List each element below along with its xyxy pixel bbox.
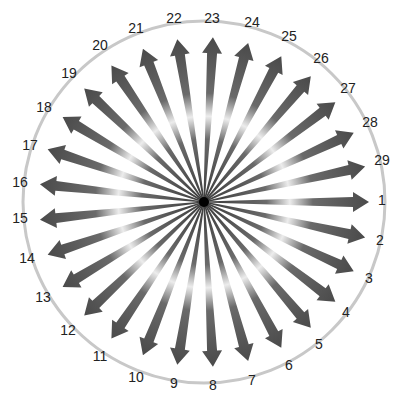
arrow-label-21: 21: [128, 20, 144, 36]
arrow-label-14: 14: [19, 250, 35, 266]
center-hub: [199, 197, 209, 207]
arrow-label-24: 24: [244, 14, 260, 30]
arrow-23: [194, 37, 223, 203]
arrow-1: [204, 192, 369, 212]
arrow-label-27: 27: [340, 80, 356, 96]
arrow-label-4: 4: [342, 304, 350, 320]
arrow-label-5: 5: [315, 336, 323, 352]
arrow-label-28: 28: [362, 114, 378, 130]
arrow-label-2: 2: [376, 232, 384, 248]
arrow-label-16: 16: [12, 174, 28, 190]
arrow-label-6: 6: [285, 357, 293, 373]
arrow-label-15: 15: [12, 210, 28, 226]
arrow-label-13: 13: [35, 289, 51, 305]
arrow-label-11: 11: [93, 348, 108, 364]
arrow-5: [196, 196, 318, 335]
arrow-label-26: 26: [313, 50, 329, 66]
arrow-label-3: 3: [365, 270, 373, 286]
arrow-label-10: 10: [128, 369, 144, 385]
arrow-label-29: 29: [374, 152, 390, 168]
arrow-8: [194, 201, 223, 367]
arrow-label-25: 25: [281, 28, 297, 44]
arrow-label-18: 18: [36, 99, 52, 115]
arrow-label-23: 23: [204, 10, 220, 26]
arrow-label-22: 22: [166, 10, 182, 26]
arrow-label-17: 17: [22, 137, 38, 153]
arrow-label-19: 19: [61, 65, 77, 81]
arrow-26: [196, 70, 318, 209]
arrow-label-1: 1: [378, 192, 386, 208]
arrow-label-7: 7: [248, 372, 256, 388]
radial-arrow-diagram: 1234567891011121314151617181920212223242…: [0, 0, 402, 401]
arrow-label-20: 20: [92, 37, 108, 53]
arrow-label-12: 12: [60, 322, 76, 338]
arrow-label-9: 9: [170, 375, 178, 391]
arrow-burst-graphic: [0, 0, 402, 401]
arrow-label-8: 8: [209, 377, 217, 393]
